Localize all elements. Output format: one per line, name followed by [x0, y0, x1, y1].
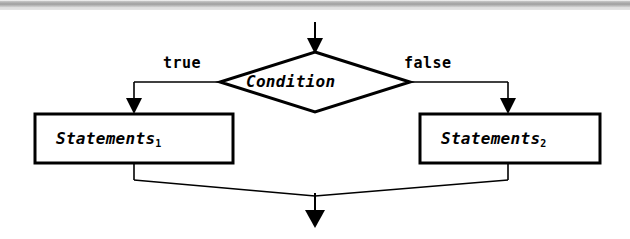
entry-connector: [307, 22, 323, 54]
flowchart-page: true false Condition Statements1 Stateme…: [0, 0, 630, 239]
false-branch-connector: [410, 82, 516, 114]
left-merge-connector: [134, 163, 315, 196]
arrow-down-icon: [500, 98, 516, 114]
branch-label-false: false: [404, 56, 452, 71]
arrow-down-icon: [126, 98, 142, 114]
true-branch-connector: [126, 82, 220, 114]
process-label-text: Statements: [56, 129, 155, 148]
right-merge-connector: [315, 163, 508, 196]
decision-label: Condition: [246, 74, 335, 90]
branch-label-true: true: [163, 56, 201, 71]
arrow-down-icon: [305, 210, 325, 228]
flowchart-canvas: [0, 0, 630, 239]
process-label-statements-2: Statements2: [441, 131, 547, 147]
process-label-text: Statements: [441, 129, 540, 148]
process-label-subscript: 1: [155, 138, 161, 149]
process-label-subscript: 2: [540, 138, 546, 149]
exit-connector: [305, 193, 325, 228]
process-label-statements-1: Statements1: [56, 131, 162, 147]
